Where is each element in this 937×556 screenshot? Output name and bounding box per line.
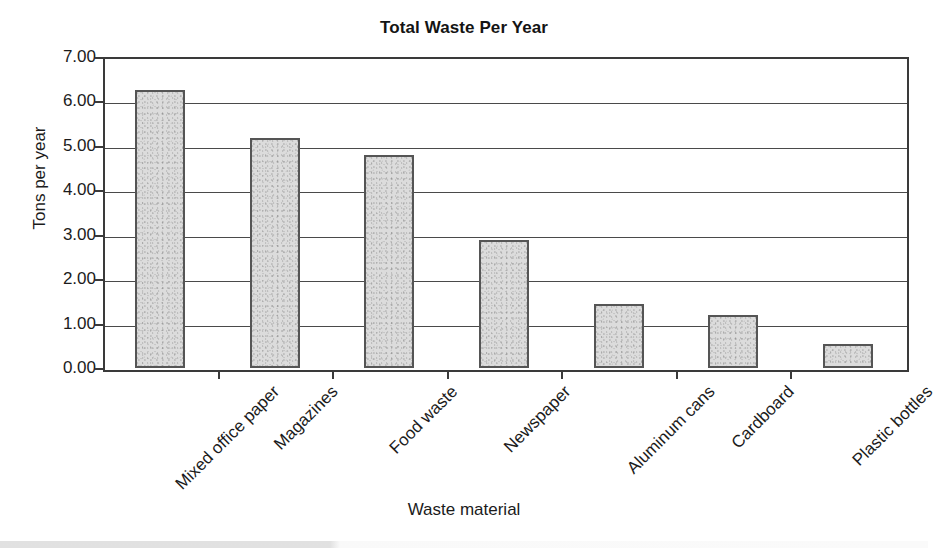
scan-artifact-band: [0, 541, 928, 548]
x-axis-tick-label: Aluminum cans: [623, 382, 719, 478]
x-axis-tick-label: Plastic bottles: [849, 382, 937, 470]
bar: [364, 155, 414, 368]
x-axis-tick-label: Food waste: [386, 382, 462, 458]
x-axis-tick-labels: Mixed office paperMagazinesFood wasteNew…: [103, 382, 905, 482]
x-axis-tick-label: Mixed office paper: [172, 382, 284, 494]
chart-title: Total Waste Per Year: [0, 18, 928, 38]
x-axis-tick-marks: [103, 370, 905, 380]
x-axis-tick-mark: [218, 370, 220, 379]
bar: [135, 90, 185, 368]
bars-layer: [103, 57, 905, 368]
x-axis-title: Waste material: [0, 500, 928, 520]
bar: [708, 315, 758, 368]
bar: [594, 304, 644, 368]
x-axis-tick-mark: [561, 370, 563, 379]
x-axis-tick-label: Newspaper: [500, 382, 575, 457]
x-axis-tick-mark: [447, 370, 449, 379]
x-axis-tick-label: Cardboard: [727, 382, 798, 453]
bar: [479, 240, 529, 368]
y-axis-tick-marks: [0, 57, 110, 368]
bar: [823, 344, 873, 368]
x-axis-tick-mark: [790, 370, 792, 379]
x-axis-tick-mark: [676, 370, 678, 379]
bar: [250, 138, 300, 368]
x-axis-tick-mark: [332, 370, 334, 379]
